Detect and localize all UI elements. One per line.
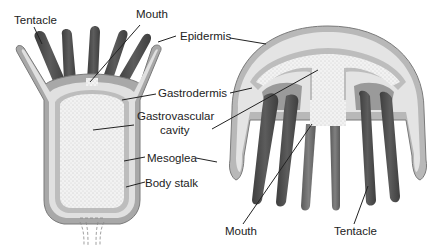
label-gastrovascular-line2: cavity: [160, 124, 190, 136]
cnidarian-diagram: Tentacle Mouth Epidermis Gastrodermis Ga…: [0, 0, 440, 251]
label-polyp-tentacle: Tentacle: [14, 14, 57, 26]
medusa: [229, 26, 426, 211]
label-gastrodermis: Gastrodermis: [158, 87, 227, 99]
label-medusa-tentacle: Tentacle: [334, 225, 377, 237]
label-polyp-mouth: Mouth: [136, 8, 168, 20]
label-epidermis: Epidermis: [180, 30, 231, 42]
polyp: [16, 26, 161, 246]
label-gastrovascular-line1: Gastrovascular: [137, 110, 215, 122]
label-body-stalk: Body stalk: [145, 177, 198, 189]
polyp-cavity: [60, 94, 124, 208]
medusa-manubrium: [310, 100, 346, 126]
label-mesoglea: Mesoglea: [147, 152, 197, 164]
label-medusa-mouth: Mouth: [225, 225, 257, 237]
